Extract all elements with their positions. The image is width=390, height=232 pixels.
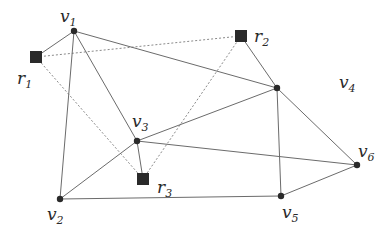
vertex-v3-dot-icon — [134, 138, 140, 144]
edge-v5-v6 — [281, 165, 357, 196]
vertex-v5-dot-icon — [278, 193, 284, 199]
node-labels: v1v2v3v4v5v6r1r2r3 — [17, 6, 375, 227]
label-r3: r3 — [157, 177, 172, 200]
robot-r3-square-icon — [137, 173, 149, 185]
label-v2: v2 — [47, 204, 64, 227]
dashed-edge-r1-r2 — [36, 36, 241, 57]
robots — [30, 30, 247, 185]
label-v6: v6 — [358, 141, 375, 164]
label-v3: v3 — [132, 111, 149, 134]
vertex-v4-dot-icon — [274, 85, 280, 91]
robot-r1-square-icon — [30, 51, 42, 63]
vertex-v2-dot-icon — [57, 196, 63, 202]
edge-v3-v4 — [137, 88, 277, 141]
robot-r2-square-icon — [235, 30, 247, 42]
label-v4: v4 — [339, 72, 356, 95]
label-v1: v1 — [60, 6, 77, 29]
edge-v3-v6 — [137, 141, 357, 165]
graph-diagram: v1v2v3v4v5v6r1r2r3 — [0, 0, 390, 232]
edge-v2-v3 — [60, 141, 137, 199]
label-v5: v5 — [282, 202, 299, 225]
label-r1: r1 — [17, 68, 32, 91]
edge-v1-v2 — [60, 31, 74, 199]
graph-edges — [60, 31, 357, 199]
graph-vertices — [57, 28, 360, 202]
edge-v4-v5 — [277, 88, 281, 196]
robot-communication-edges — [36, 36, 241, 179]
edge-v4-v6 — [277, 88, 357, 165]
dashed-edge-r1-r3 — [36, 57, 143, 179]
label-r2: r2 — [254, 26, 269, 49]
vertex-v6-dot-icon — [354, 162, 360, 168]
